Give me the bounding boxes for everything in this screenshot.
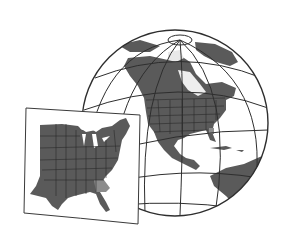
globe-illustration bbox=[0, 0, 290, 237]
us-map-inset bbox=[24, 108, 140, 224]
